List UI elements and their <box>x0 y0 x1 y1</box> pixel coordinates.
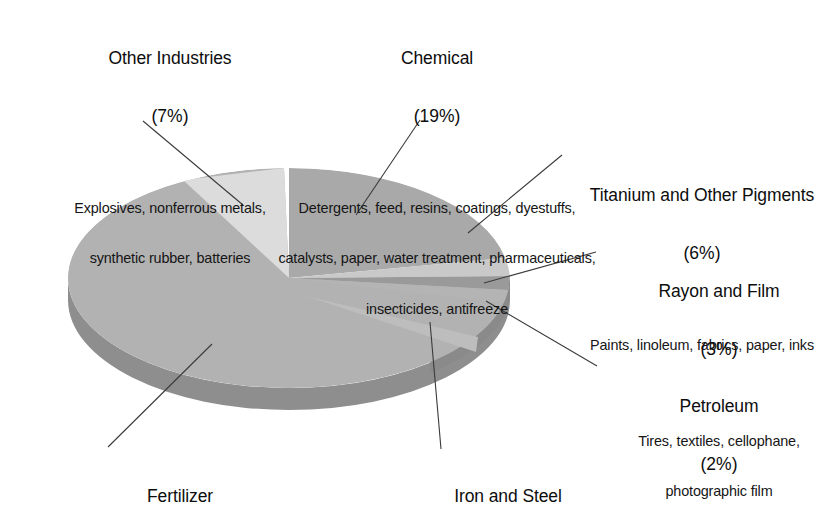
label-chemical-desc-line-1: Detergents, feed, resins, coatings, dyes… <box>272 200 602 217</box>
label-chemical-title: Chemical <box>272 48 602 69</box>
label-chemical: Chemical (19%) Detergents, feed, resins,… <box>272 10 602 390</box>
label-chemical-desc-line-2: catalysts, paper, water treatment, pharm… <box>272 250 602 267</box>
label-iron-and-steel: Iron and Steel (2%) Autos, appliances, c… <box>372 448 644 528</box>
label-titanium-title: Titanium and Other Pigments <box>566 185 838 206</box>
label-chemical-percent: (19%) <box>272 106 602 127</box>
label-chemical-description: Detergents, feed, resins, coatings, dyes… <box>272 166 602 353</box>
label-rayon-title: Rayon and Film <box>600 281 838 302</box>
label-rayon-percent: (3%) <box>600 339 838 360</box>
label-chemical-desc-line-3: insecticides, antifreeze <box>272 301 602 318</box>
label-fertilizer: Fertilizer (61%) Superphosphates, ammoni… <box>0 448 362 528</box>
label-fertilizer-title: Fertilizer <box>0 486 362 507</box>
label-iron-steel-title: Iron and Steel <box>372 486 644 507</box>
label-petroleum-title: Petroleum <box>600 396 838 417</box>
pie-chart-figure: Other Industries (7%) Explosives, nonfer… <box>0 0 838 528</box>
